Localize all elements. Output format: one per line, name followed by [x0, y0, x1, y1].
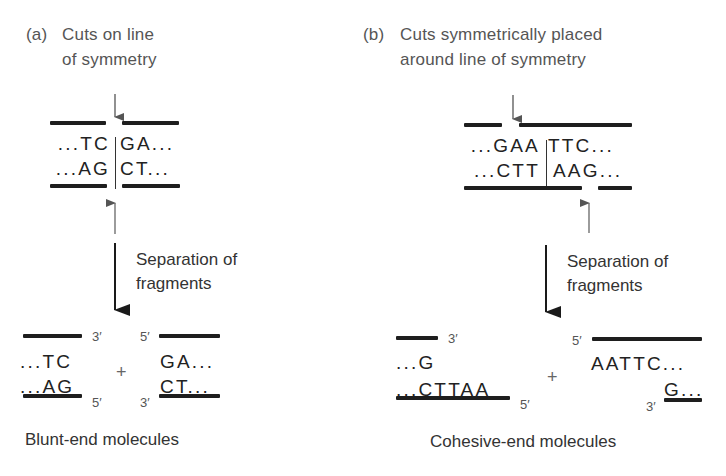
seq-bottom-left-a: ...AG [50, 158, 110, 180]
arrows-layer [0, 0, 726, 476]
frag-right-top-end-b: 5′ [572, 333, 582, 348]
strand-top-right-b [519, 123, 632, 127]
frag-left-bottom-strand-b [396, 396, 510, 400]
seq-top-left-b: ...GAA [440, 135, 540, 157]
strand-bottom-left-a [50, 184, 107, 188]
frag-right-bottom-strand-a [159, 394, 220, 398]
frag-left-top-seq-b: ...G [396, 352, 435, 374]
separation-label-a-line1: Separation of [136, 250, 237, 270]
panel-b-letter: (b) [363, 25, 384, 45]
panel-a-title-line1: Cuts on line [62, 25, 154, 45]
panel-b-title-line1: Cuts symmetrically placed [400, 25, 602, 45]
frag-right-bottom-strand-b [664, 398, 702, 402]
seq-top-right-b: TTC... [548, 135, 614, 157]
frag-right-top-strand-b [592, 337, 702, 341]
frag-left-top-seq-a: ...TC [20, 351, 72, 373]
plus-a: + [116, 362, 127, 383]
strand-top-right-a [122, 121, 179, 125]
frag-right-top-end-a: 5′ [140, 329, 150, 344]
symmetry-line-b [546, 140, 547, 188]
separation-label-a-line2: fragments [136, 274, 212, 294]
strand-bottom-right-a [122, 184, 180, 188]
frag-right-bottom-end-b: 3′ [646, 399, 656, 414]
seq-bottom-right-a: CT... [120, 158, 170, 180]
strand-bottom-right-b [598, 186, 632, 190]
separation-label-b-line1: Separation of [567, 252, 668, 272]
panel-a-letter: (a) [26, 25, 47, 45]
result-label-a: Blunt-end molecules [25, 430, 179, 450]
frag-right-top-seq-a: GA... [160, 351, 214, 373]
strand-bottom-left-b [464, 186, 582, 190]
panel-a-title-line2: of symmetry [62, 50, 157, 70]
separation-label-b-line2: fragments [567, 276, 643, 296]
plus-b: + [547, 367, 558, 388]
seq-bottom-left-b: ...CTT [440, 160, 540, 182]
frag-right-top-strand-a [159, 334, 220, 338]
frag-left-top-strand-a [23, 334, 82, 338]
seq-top-right-a: GA... [120, 133, 174, 155]
frag-left-top-end-a: 3′ [92, 329, 102, 344]
strand-top-left-b [464, 123, 502, 127]
frag-left-top-strand-b [396, 336, 438, 340]
frag-left-bottom-end-b: 5′ [520, 397, 530, 412]
strand-top-left-a [50, 121, 106, 125]
seq-top-left-a: ...TC [50, 133, 110, 155]
frag-right-top-seq-b: AATTC... [591, 353, 685, 375]
seq-bottom-right-b: AAG... [553, 160, 622, 182]
frag-right-bottom-end-a: 3′ [140, 395, 150, 410]
frag-left-top-end-b: 3′ [448, 331, 458, 346]
frag-left-bottom-end-a: 5′ [92, 395, 102, 410]
frag-left-bottom-strand-a [23, 394, 82, 398]
symmetry-line-a [115, 137, 116, 189]
result-label-b: Cohesive-end molecules [430, 432, 616, 452]
panel-b-title-line2: around line of symmetry [400, 50, 586, 70]
